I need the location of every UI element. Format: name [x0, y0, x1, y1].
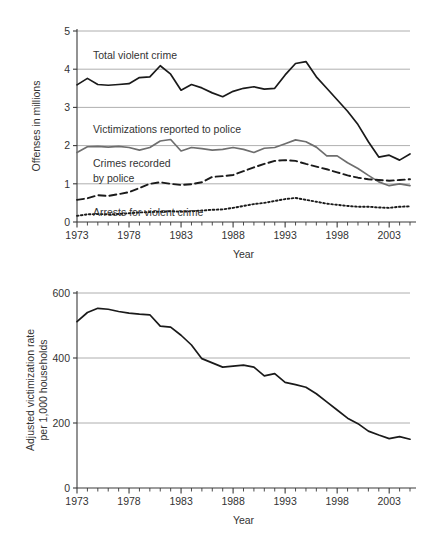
- x-tick-label-1978: 1978: [117, 229, 141, 241]
- y-tick-label-2: 2: [64, 139, 70, 151]
- x-tick-label-1973: 1973: [65, 229, 89, 241]
- series-line-adjusted-victimization-rate-per-1-000-households: [77, 308, 410, 439]
- x-tick-label-2003: 2003: [378, 229, 402, 241]
- y-tick-label-0: 0: [64, 482, 70, 494]
- x-tick-label-1988: 1988: [221, 229, 245, 241]
- x-tick-label-1978: 1978: [117, 495, 141, 507]
- victimization-rate-svg: 02004006001973197819831988199319982003Ye…: [0, 280, 448, 545]
- y-tick-label-5: 5: [64, 25, 70, 37]
- y-tick-label-3: 3: [64, 101, 70, 113]
- series-annotation-crimes-recorded-line2: by police: [93, 172, 135, 184]
- series-annotation-arrests-violent-crime: Arrests for violent crime: [93, 206, 203, 218]
- series-annotation-total-violent-crime: Total violent crime: [93, 49, 177, 61]
- adjusted-victimization-rate-chart: 02004006001973197819831988199319982003Ye…: [0, 280, 448, 545]
- y-tick-label-0: 0: [64, 216, 70, 228]
- x-tick-label-1983: 1983: [169, 229, 193, 241]
- x-tick-label-2003: 2003: [378, 495, 402, 507]
- y-axis-title-line2: per 1,000 households: [37, 340, 49, 441]
- y-tick-label-1: 1: [64, 178, 70, 190]
- x-tick-label-1993: 1993: [273, 495, 297, 507]
- x-axis-title: Year: [233, 514, 255, 526]
- violent-crime-svg: 0123451973197819831988199319982003YearOf…: [0, 0, 448, 280]
- y-axis-title: Offenses in millions: [30, 81, 42, 172]
- x-tick-label-1973: 1973: [65, 495, 89, 507]
- x-tick-label-1998: 1998: [325, 229, 349, 241]
- series-annotation-crimes-recorded-line1: Crimes recorded: [93, 157, 171, 169]
- x-tick-label-1988: 1988: [221, 495, 245, 507]
- violent-crime-trends-chart: 0123451973197819831988199319982003YearOf…: [0, 0, 448, 280]
- series-annotation-victimizations-reported: Victimizations reported to police: [93, 123, 241, 135]
- y-tick-label-600: 600: [52, 287, 70, 299]
- y-tick-label-200: 200: [52, 417, 70, 429]
- x-tick-label-1998: 1998: [325, 495, 349, 507]
- x-tick-label-1993: 1993: [273, 229, 297, 241]
- x-tick-label-1983: 1983: [169, 495, 193, 507]
- y-tick-label-400: 400: [52, 352, 70, 364]
- x-axis-title: Year: [233, 248, 255, 260]
- y-axis-title-line1: Adjusted victimization rate: [24, 329, 36, 451]
- y-tick-label-4: 4: [64, 63, 70, 75]
